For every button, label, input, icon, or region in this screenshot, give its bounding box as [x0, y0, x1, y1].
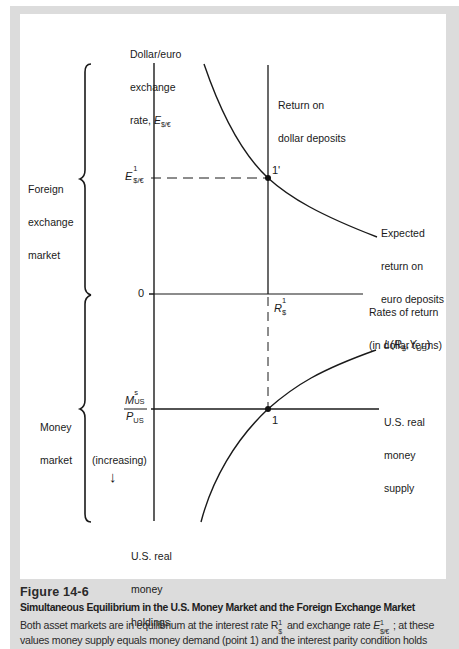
- caption-line-1: Both asset markets are in equilibrium at…: [20, 618, 450, 633]
- foreign-exchange-brace: [80, 64, 91, 295]
- fx-label-line3: market: [28, 250, 74, 261]
- figure-title: Simultaneous Equilibrium in the U.S. Mon…: [20, 602, 450, 618]
- e1-label: E1$/€: [125, 170, 146, 182]
- money-market-line2: market: [40, 455, 72, 466]
- money-supply-line3: supply: [384, 483, 425, 494]
- down-arrow-icon: ↓: [109, 468, 117, 485]
- point-1-label: 1: [272, 414, 278, 426]
- money-demand-curve: [201, 350, 376, 522]
- figure-caption: Figure 14-6 Simultaneous Equilibrium in …: [20, 585, 450, 648]
- point-1-prime-dot: [265, 175, 271, 181]
- point-1-prime-label: 1': [272, 164, 280, 176]
- euro-return-line1: Expected: [381, 228, 444, 239]
- money-supply-label: U.S. real money supply: [384, 395, 425, 516]
- vertical-axis-label-line2: exchange: [130, 82, 181, 93]
- horizontal-axis-label: Rates of return (in dollar terms): [369, 285, 442, 373]
- dollar-return-line1: Return on: [278, 100, 346, 111]
- figure-number: Figure 14-6: [20, 585, 450, 602]
- money-demand-label: L(R$,YUS): [384, 338, 430, 353]
- foreign-exchange-market-label: Foreign exchange market: [28, 162, 74, 283]
- money-supply-line2: money: [384, 450, 425, 461]
- increasing-label: (increasing): [92, 455, 147, 466]
- figure-page: Dollar/euro exchange rate, E$/€ Return o…: [0, 0, 459, 649]
- money-market-label: Money market: [40, 400, 72, 488]
- r1-label: R1$: [274, 302, 290, 314]
- fx-label-line1: Foreign: [28, 184, 74, 195]
- dollar-return-label: Return on dollar deposits: [278, 78, 346, 166]
- euro-return-line2: return on: [381, 261, 444, 272]
- money-market-line1: Money: [40, 422, 72, 433]
- vertical-axis-label-line1: Dollar/euro: [130, 49, 181, 60]
- money-supply-line1: U.S. real: [384, 417, 425, 428]
- horizontal-axis-label-line1: Rates of return: [369, 307, 442, 318]
- vertical-axis-label: Dollar/euro exchange rate, E$/€: [130, 27, 181, 152]
- figure-caption-body: Both asset markets are in equilibrium at…: [20, 618, 450, 648]
- p-denominator: PUS: [126, 410, 144, 425]
- point-1-dot: [265, 406, 271, 412]
- fx-label-line2: exchange: [28, 217, 74, 228]
- vertical-axis-label-line3: rate, E$/€: [130, 115, 181, 130]
- dollar-return-line2: dollar deposits: [278, 133, 346, 144]
- money-market-brace: [80, 295, 91, 522]
- ms-numerator: MsUS: [125, 394, 148, 406]
- lower-axis-label-line1: U.S. real: [131, 551, 172, 562]
- origin-label: 0: [138, 287, 144, 299]
